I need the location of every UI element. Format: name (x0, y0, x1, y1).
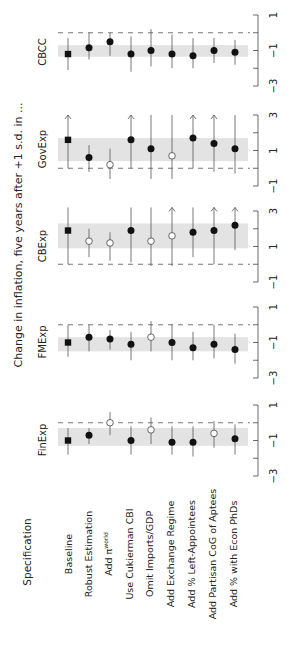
panel-label-finexp: FinExp (37, 424, 48, 457)
axis-tick-label: 1 (268, 147, 279, 153)
filled-circle-marker (211, 47, 218, 54)
filled-circle-marker (232, 145, 239, 152)
filled-circle-marker (190, 52, 197, 59)
open-circle-marker (148, 238, 155, 245)
axis-tick-label: −1 (268, 43, 279, 58)
spec-label-econ-phds: Add % with Econ PhDs (228, 501, 239, 608)
filled-circle-marker (86, 432, 93, 439)
axis-tick-label: −1 (268, 275, 279, 290)
filled-circle-marker (128, 136, 135, 143)
filled-circle-marker (148, 47, 155, 54)
filled-circle-marker (107, 335, 114, 342)
filled-circle-marker (232, 222, 239, 229)
axis-tick-label: −3 (268, 371, 279, 386)
panel-cbexp: 31−1 (58, 207, 279, 289)
open-circle-marker (169, 153, 176, 160)
filled-circle-marker (169, 51, 176, 58)
spec-label-omit-imports-gdp: Omit Imports/GDP (144, 511, 155, 597)
panel-finexp: 1−1−3 (58, 402, 279, 484)
filled-circle-marker (128, 437, 135, 444)
filled-circle-marker (128, 51, 135, 58)
filled-circle-marker (190, 229, 197, 236)
spec-label-pi-superscript: world (102, 532, 109, 549)
spec-label-exchange-regime: Add Exchange Regime (165, 501, 176, 608)
plot-panels: 1−1−331−131−11−1−31−1−3 (58, 12, 279, 484)
baseline-square-marker (65, 437, 71, 443)
baseline-square-marker (65, 137, 71, 143)
axis-tick-label: 3 (268, 208, 279, 214)
filled-circle-marker (128, 227, 135, 234)
filled-circle-marker (211, 341, 218, 348)
axis-tick-label: −1 (268, 335, 279, 350)
open-circle-marker (169, 233, 176, 240)
panel-label-govexp: GovExp (37, 130, 48, 168)
filled-circle-marker (128, 341, 135, 348)
panel-label-cbexp: CBExp (37, 230, 48, 262)
spec-label-baseline: Baseline (63, 534, 74, 574)
spec-label-partisan-cog: Add Partisan CoG of Aptees (207, 489, 218, 620)
filled-circle-marker (86, 334, 93, 341)
axis-tick-label: 3 (268, 112, 279, 118)
filled-circle-marker (169, 339, 176, 346)
spec-label-add-pi: Add π (103, 548, 114, 575)
spec-labels: Baseline Robust Estimation Add πworld Us… (63, 489, 239, 620)
axis-tick-label: −3 (268, 79, 279, 94)
axis-tick-label: −1 (268, 433, 279, 448)
filled-circle-marker (190, 135, 197, 142)
filled-circle-marker (148, 145, 155, 152)
open-circle-marker (148, 334, 155, 341)
filled-circle-marker (86, 44, 93, 51)
y-axis-label: Change in inflation, five years after +1… (12, 103, 25, 368)
filled-circle-marker (190, 439, 197, 446)
confidence-band (58, 223, 248, 248)
open-circle-marker (86, 238, 93, 245)
open-circle-marker (211, 430, 218, 437)
panel-fmexp: 1−1−3 (58, 304, 279, 386)
filled-circle-marker (107, 38, 114, 45)
axis-tick-label: −3 (268, 469, 279, 484)
baseline-square-marker (65, 339, 71, 345)
filled-circle-marker (211, 227, 218, 234)
baseline-square-marker (65, 227, 71, 233)
filled-circle-marker (86, 154, 93, 161)
panel-cbcc: 1−1−3 (58, 12, 279, 94)
axis-tick-label: 1 (268, 12, 279, 18)
spec-label-cukierman-cbi: Use Cukierman CBI (124, 508, 135, 599)
panel-label-fmexp: FMExp (37, 326, 48, 359)
open-circle-marker (148, 427, 155, 434)
open-circle-marker (107, 240, 114, 247)
filled-circle-marker (211, 140, 218, 147)
x-axis-label: Specification (21, 518, 33, 585)
spec-label-robust-estimation: Robust Estimation (83, 511, 94, 597)
coefficient-plot-figure: 1−1−331−131−11−1−31−1−3 Change in inflat… (0, 0, 291, 665)
axis-tick-label: −1 (268, 179, 279, 194)
baseline-square-marker (65, 51, 71, 57)
axis-tick-label: 1 (268, 304, 279, 310)
open-circle-marker (107, 161, 114, 168)
filled-circle-marker (232, 346, 239, 353)
axis-tick-label: 1 (268, 402, 279, 408)
panel-govexp: 31−1 (58, 112, 279, 194)
filled-circle-marker (232, 49, 239, 56)
filled-circle-marker (190, 344, 197, 351)
open-circle-marker (107, 419, 114, 426)
filled-circle-marker (232, 435, 239, 442)
panel-label-cbcc: CBCC (37, 38, 48, 66)
spec-label-add-pi-world: Add πworld (102, 532, 114, 576)
spec-label-left-appointees: Add % Left-Appointees (186, 500, 197, 608)
axis-tick-label: 1 (268, 243, 279, 249)
filled-circle-marker (169, 439, 176, 446)
